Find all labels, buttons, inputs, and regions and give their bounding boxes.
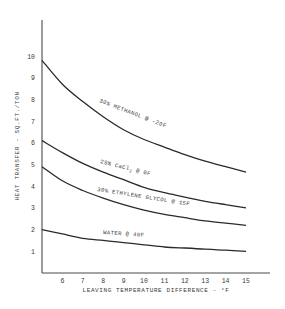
label-cacl2: 25% CaCl2 @ 0F: [99, 158, 151, 178]
x-tick-label: 15: [242, 278, 250, 285]
x-tick-label: 7: [81, 278, 85, 285]
label-methanol: 30% METHANOL @ -20F: [98, 97, 167, 129]
y-tick-label: 1: [31, 249, 35, 256]
curves: [42, 60, 246, 251]
heat-transfer-chart: 12345678910 6789101112131415 LEAVING TEM…: [0, 0, 285, 309]
x-tick-label: 6: [60, 278, 64, 285]
y-axis-title: HEAT TRANSFER - SQ.FT./TON: [14, 91, 21, 200]
y-tick-labels: 12345678910: [27, 54, 35, 256]
y-tick-label: 8: [31, 97, 35, 104]
x-tick-label: 13: [201, 278, 209, 285]
x-axis-title: LEAVING TEMPERATURE DIFFERENCE - °F: [82, 287, 229, 294]
y-tick-label: 4: [31, 184, 35, 191]
label-water: WATER @ 40F: [103, 229, 145, 239]
y-tick-label: 3: [31, 205, 35, 212]
y-tick-label: 6: [31, 140, 35, 147]
y-tick-label: 2: [31, 227, 35, 234]
label-cacl2-prefix: 25% CaCl: [100, 158, 131, 172]
x-tick-label: 11: [160, 278, 168, 285]
label-cacl2-suffix: @ 0F: [132, 166, 152, 177]
x-tick-label: 14: [222, 278, 230, 285]
label-glycol: 30% ETHYLENE GLYCOL @ 15F: [97, 186, 191, 208]
y-tick-label: 5: [31, 162, 35, 169]
y-tick-label: 7: [31, 119, 35, 126]
x-tick-label: 10: [140, 278, 148, 285]
x-tick-label: 9: [122, 278, 126, 285]
x-tick-label: 8: [101, 278, 105, 285]
x-tick-label: 12: [181, 278, 189, 285]
y-tick-label: 10: [27, 54, 35, 61]
y-tick-label: 9: [31, 75, 35, 82]
x-tick-labels: 6789101112131415: [60, 278, 250, 285]
